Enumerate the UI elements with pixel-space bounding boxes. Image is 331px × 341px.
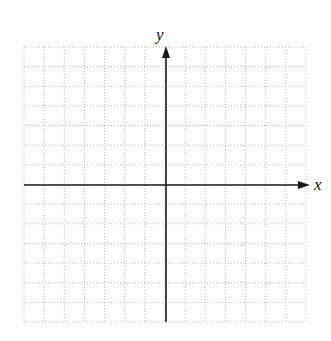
coordinate-plane: x y [0,0,331,341]
x-axis-arrow-icon [298,181,310,189]
y-axis-arrow-icon [162,46,170,58]
x-axis [24,181,310,189]
coordinate-plane-svg: x y [0,0,331,341]
x-axis-label: x [313,175,322,194]
y-axis-label: y [154,25,164,44]
